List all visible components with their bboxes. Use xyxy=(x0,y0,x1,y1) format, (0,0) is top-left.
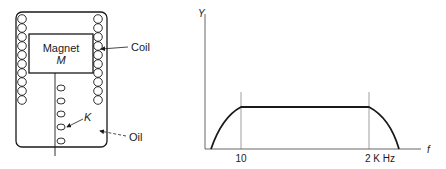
tick-label-low: 10 xyxy=(235,153,247,164)
coil-pointer-arrow xyxy=(101,47,128,49)
magnet-symbol: M xyxy=(56,54,66,66)
response-curve xyxy=(211,107,399,149)
spring-constant-label: K xyxy=(84,111,92,123)
spring-pointer-arrow xyxy=(67,119,83,127)
coil-label: Coil xyxy=(131,41,150,53)
figure: Magnet M Coil K Oil Y f 10 2 K Hz xyxy=(0,0,446,169)
spring-coils xyxy=(57,85,65,144)
magnet-label: Magnet xyxy=(43,42,80,54)
tick-label-high: 2 K Hz xyxy=(365,153,395,164)
oil-container xyxy=(16,12,107,147)
x-axis-label: f xyxy=(427,144,431,155)
seismometer-diagram: Magnet M Coil K Oil xyxy=(16,12,150,156)
oil-label: Oil xyxy=(129,131,142,143)
coil-right-column xyxy=(94,15,103,105)
oil-pointer-arrow xyxy=(100,131,126,136)
frequency-response-chart: Y f 10 2 K Hz xyxy=(198,8,431,164)
coil-left-column xyxy=(18,15,27,105)
